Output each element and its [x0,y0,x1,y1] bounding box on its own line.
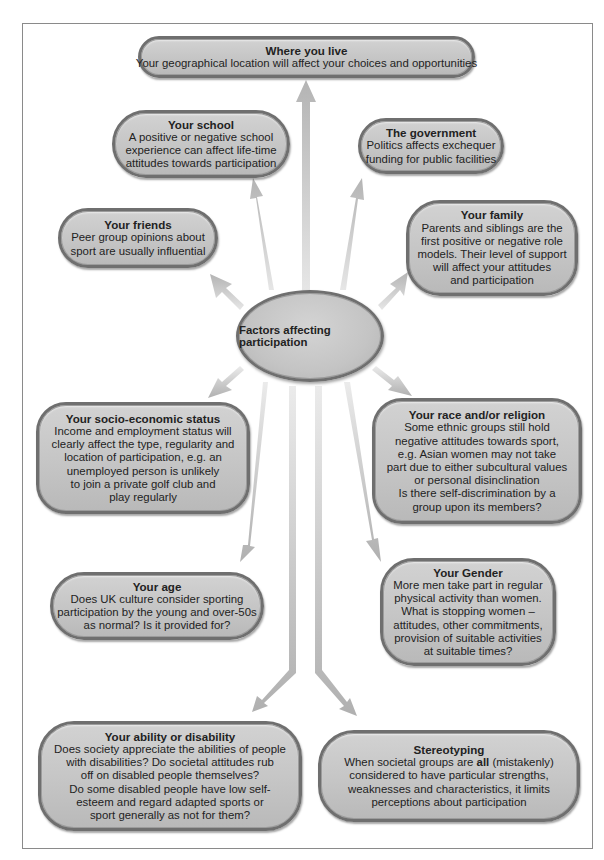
arrow-to-socio-economic [208,366,244,398]
arrow-to-where-you-live [296,80,316,290]
text-segment: (mistakenly) [489,756,554,768]
factor-text: as normal? Is it provided for? [84,619,231,632]
factor-text: funding for public facilities [366,153,496,166]
text-segment: When societal groups are [344,756,476,768]
emphasis-all: all [477,756,490,768]
factor-text: Parents and siblings are the [421,222,562,235]
factor-text: to join a private golf club and [70,478,215,491]
factor-family: Your family Parents and siblings are the… [406,200,578,296]
central-topic-label: Factors affecting participation [239,324,381,348]
factor-text: Do some disabled people have low self- [69,783,270,796]
arrow-to-stereotyping [315,386,357,716]
factor-text: What is stopping women – [401,605,535,618]
factor-text: location of participation, e.g. an [64,451,222,464]
factor-text: perceptions about participation [371,796,526,809]
factor-text: part due to either subcultural values [387,461,567,474]
factor-text: play regularly [109,491,177,504]
arrow-to-government [340,178,364,290]
factor-text: with disabilities? Do societal attitudes… [66,756,274,769]
factor-text: off on disabled people themselves? [81,769,259,782]
factor-text: at suitable times? [424,645,513,658]
factor-stereotyping: Stereotyping When societal groups are al… [318,730,580,822]
factor-socio-economic-status: Your socio-economic status Income and em… [36,402,250,514]
factor-text: Some ethnic groups still hold [404,421,550,434]
factor-ability-disability: Your ability or disability Does society … [38,721,302,831]
factor-text: weaknesses and characteristics, it limit… [348,783,550,796]
factor-title: The government [386,126,476,139]
factor-text: or personal disinclination [414,474,539,487]
factor-text: sport are usually influential [71,245,206,258]
factor-age: Your age Does UK culture consider sporti… [50,572,264,640]
factor-race-religion: Your race and/or religion Some ethnic gr… [372,398,582,524]
factor-friends: Your friends Peer group opinions about s… [58,208,218,268]
arrow-to-school [250,178,274,290]
factor-gender: Your Gender More men take part in regula… [380,558,556,666]
factor-text: physical activity than women. [394,592,542,605]
factor-text: Income and employment status will [54,425,231,438]
factor-text: group upon its members? [412,501,541,514]
factor-text: clearly affect the type, regularity and [52,438,235,451]
factor-text: When societal groups are all (mistakenly… [344,756,554,769]
factor-text: unemployed person is unlikely [67,465,220,478]
factor-title: Your school [168,118,234,131]
arrow-to-family [378,272,408,310]
factor-text: models. Their level of support [417,248,566,261]
arrow-to-race-religion [372,366,412,396]
factor-text: Does society appreciate the abilities of… [54,743,286,756]
factor-title: Your socio-economic status [66,412,220,425]
factor-title: Your ability or disability [105,730,236,743]
central-topic: Factors affecting participation [236,290,384,382]
factor-government: The government Politics affects excheque… [358,118,504,174]
factor-text: provision of suitable activities [394,632,542,645]
factor-text: first positive or negative role [421,235,563,248]
factor-title: Your family [461,208,523,221]
factor-text: participation by the young and over-50s [57,606,256,619]
factor-text: Peer group opinions about [71,231,205,244]
factor-title: Your friends [104,218,171,231]
factor-title: Your race and/or religion [409,408,545,421]
factor-text: Does UK culture consider sporting [71,593,244,606]
factor-text: Is there self-discrimination by a [399,487,556,500]
factor-text: attitudes towards participation [126,157,277,170]
factor-text: Politics affects exchequer [367,139,496,152]
factor-text: considered to have particular strengths, [349,769,548,782]
factor-text: experience can affect life-time [125,144,276,157]
factor-text: More men take part in regular [393,579,542,592]
factor-text: e.g. Asian women may not take [398,448,556,461]
factor-school: Your school A positive or negative schoo… [112,110,290,178]
factor-text: will affect your attitudes [433,261,551,274]
factor-where-you-live: Where you live Your geographical locatio… [138,36,475,78]
factor-text: A positive or negative school [129,131,273,144]
factor-text: esteem and regard adapted sports or [76,796,263,809]
factor-text: and participation [450,274,534,287]
factor-title: Your Gender [433,566,502,579]
factor-text: Your geographical location will affect y… [136,57,477,70]
factor-text: attitudes, other commitments, [393,619,542,632]
factor-title: Your age [133,580,182,593]
factor-title: Stereotyping [414,743,485,756]
factor-text: negative attitudes towards sport, [395,435,559,448]
arrow-to-friends [210,274,244,310]
factor-text: sport generally as not for them? [90,809,250,822]
factor-title: Where you live [266,44,348,57]
